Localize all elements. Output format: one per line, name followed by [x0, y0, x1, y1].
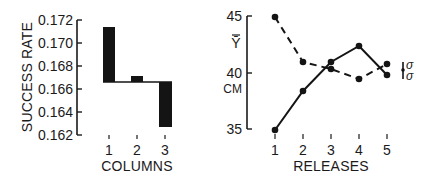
y-tick-label: 0.168 — [38, 58, 73, 74]
y-tick-label: 0.170 — [38, 35, 73, 51]
releases-line-chart: 45 Ȳ 40 CM 35 — [223, 8, 414, 174]
y-tick-label: 35 — [226, 121, 242, 137]
y-axis-title: Ȳ — [231, 35, 241, 51]
x-tick-label: 5 — [383, 142, 391, 158]
x-tick-label: 4 — [355, 142, 363, 158]
y-tick-label: 40 — [226, 65, 242, 81]
y-axis-title: SUCCESS RATE — [19, 22, 35, 132]
x-tick-labels: 1 2 3 — [105, 142, 169, 158]
bar-column-3 — [159, 82, 172, 127]
figure: SUCCESS RATE 0.172 0.170 0.168 0.166 0.1… — [0, 0, 434, 185]
x-tick-label: 2 — [299, 142, 307, 158]
x-tick-label: 3 — [327, 142, 335, 158]
x-tick-label: 1 — [271, 142, 279, 158]
bar-column-2 — [131, 76, 143, 82]
error-bar-dot-icon — [401, 68, 405, 72]
y-tick-label: 0.172 — [38, 12, 73, 28]
y-axis-unit: CM — [223, 82, 242, 96]
y-tick-label: 0.164 — [38, 104, 73, 120]
success-rate-bar-chart: SUCCESS RATE 0.172 0.170 0.168 0.166 0.1… — [19, 12, 173, 174]
x-axis-ticks — [275, 134, 387, 139]
x-axis-title: COLUMNS — [101, 158, 172, 174]
bars — [103, 27, 172, 127]
y-tick-label: 0.162 — [38, 127, 73, 143]
x-tick-label: 3 — [161, 142, 169, 158]
x-tick-label: 2 — [133, 142, 141, 158]
x-tick-label: 1 — [105, 142, 113, 158]
y-tick-label: 45 — [226, 8, 242, 24]
y-tick-label: 0.166 — [38, 81, 73, 97]
x-tick-labels: 1 2 3 4 5 — [271, 142, 391, 158]
x-axis-title: RELEASES — [293, 158, 369, 174]
sigma-legend: σ σ — [401, 58, 414, 83]
y-tick-labels: 0.172 0.170 0.168 0.166 0.164 0.162 — [38, 12, 73, 143]
x-axis-ticks — [109, 135, 165, 139]
legend-sigma-bottom: σ — [406, 69, 414, 83]
bar-column-1 — [103, 27, 115, 82]
series-mean-points — [272, 43, 391, 134]
series-mean-line — [275, 46, 387, 130]
